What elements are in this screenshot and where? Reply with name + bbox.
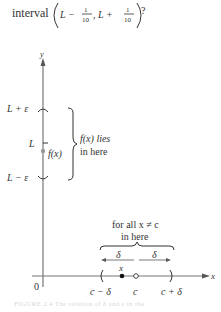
brace-text-line1: f(x) lies xyxy=(80,133,110,145)
expr-mid: , L + xyxy=(93,9,113,20)
vertical-brace xyxy=(68,108,77,180)
delta-left-arrow-icon xyxy=(101,258,106,262)
label-L: L xyxy=(28,138,35,149)
interval-expression: L − 1 10 , L + 1 10 ? xyxy=(54,3,146,28)
delta-right-label: δ xyxy=(152,249,157,260)
fx-label: f(x) xyxy=(48,148,63,160)
figure-caption: FIGURE 2.4 The relation of δ and ε in th… xyxy=(14,300,144,308)
delta-right-arrow-icon xyxy=(166,258,171,262)
label-c-minus-delta: c − δ xyxy=(90,286,111,297)
frac-den-1: 10 xyxy=(82,16,90,24)
frac-num-1: 1 xyxy=(84,6,88,14)
hbrace-text-line2: in here xyxy=(121,231,149,242)
epsilon-delta-diagram: L − 1 10 , L + 1 10 ? y x 0 L + ε L f(x)… xyxy=(0,0,221,312)
label-c: c xyxy=(133,286,138,297)
hbrace-text-line1: for all x ≠ c xyxy=(112,219,159,230)
c-open-point xyxy=(134,274,139,279)
label-L-plus-eps: L + ε xyxy=(6,103,28,114)
frac-num-2: 1 xyxy=(126,6,130,14)
delta-left-label: δ xyxy=(116,249,121,260)
x-axis-label: x xyxy=(210,271,215,281)
expr-left: L − xyxy=(59,9,75,20)
fx-point xyxy=(41,149,45,153)
label-L-minus-eps: L − ε xyxy=(6,172,28,183)
brace-text-line2: in here xyxy=(80,146,108,157)
origin-label: 0 xyxy=(34,281,39,292)
x-point xyxy=(120,274,125,279)
x-axis-arrow-icon xyxy=(202,274,210,279)
x-point-label: x xyxy=(118,263,123,273)
label-c-plus-delta: c + δ xyxy=(161,286,182,297)
frac-den-2: 10 xyxy=(124,16,132,24)
y-axis-arrow-icon xyxy=(41,58,46,66)
horizontal-brace xyxy=(100,242,174,250)
y-axis-label: y xyxy=(39,50,44,59)
question-suffix: ? xyxy=(141,5,146,16)
